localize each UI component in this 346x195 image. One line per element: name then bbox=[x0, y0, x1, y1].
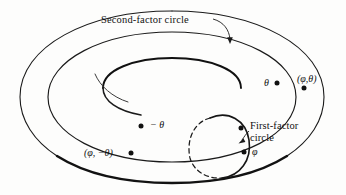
first-factor-circle-solid bbox=[210, 115, 249, 178]
negative-theta-label: − θ bbox=[150, 120, 164, 130]
theta-label: θ bbox=[264, 78, 269, 88]
point-phi-dot bbox=[242, 150, 247, 155]
first-factor-circle-dashed bbox=[189, 118, 222, 178]
second-factor-leader-arrowhead bbox=[227, 37, 233, 44]
point-theta-dot bbox=[275, 81, 280, 86]
inner-hole-back-arc bbox=[103, 58, 241, 88]
phi-label: φ bbox=[252, 147, 258, 157]
first-factor-circle-label-line1: First-factor bbox=[250, 120, 298, 132]
first-factor-circle-label: First-factor circle bbox=[250, 120, 298, 143]
torus-illustration bbox=[0, 0, 346, 195]
point-phi-neg-theta-dot bbox=[129, 151, 134, 156]
point-neg-theta-dot bbox=[139, 124, 144, 129]
torus-figure: Second-factor circle First-factor circle… bbox=[0, 0, 346, 195]
first-factor-circle-label-line2: circle bbox=[250, 132, 298, 144]
outer-boundary-bold-front bbox=[57, 156, 287, 183]
point-phi-theta-label: (φ,θ) bbox=[297, 74, 317, 84]
inner-hole-crossing-arc bbox=[95, 74, 128, 102]
second-factor-circle-label: Second-factor circle bbox=[101, 15, 189, 26]
first-factor-leader-arrowhead bbox=[239, 138, 246, 143]
point-first-factor-top-dot bbox=[239, 126, 244, 131]
point-phi-theta-dot bbox=[302, 86, 307, 91]
point-phi-negative-theta-label: (φ, −θ) bbox=[84, 148, 113, 158]
